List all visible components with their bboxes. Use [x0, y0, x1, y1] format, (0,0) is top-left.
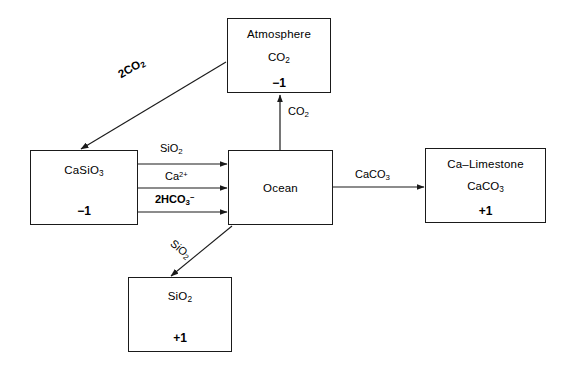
node-casio3[interactable]: CaSiO3 −1 — [30, 150, 138, 225]
formula-base: Ca — [165, 170, 179, 182]
node-atmosphere-value: −1 — [272, 76, 286, 90]
edge-atmosphere-to-casio3 — [81, 62, 226, 149]
node-ocean-title: Ocean — [263, 182, 298, 194]
formula-base: CaCO — [467, 180, 499, 192]
node-atmosphere-formula: CO2 — [268, 51, 290, 65]
formula-subscript: 3 — [499, 185, 504, 194]
node-sio2-title: SiO2 — [168, 290, 193, 304]
node-casio3-value: −1 — [77, 204, 91, 218]
node-sio2[interactable]: SiO2 +1 — [128, 277, 232, 352]
formula-subscript: 2 — [178, 147, 182, 156]
formula-subscript: 2 — [187, 295, 192, 304]
node-ocean[interactable]: Ocean — [228, 150, 333, 225]
node-limestone-formula: CaCO3 — [467, 180, 504, 194]
formula-base: CaCO — [355, 168, 386, 180]
edge-label-caco3: CaCO3 — [355, 168, 390, 182]
formula-superscript: − — [190, 193, 194, 202]
node-atmosphere-title: Atmosphere — [247, 28, 311, 40]
node-limestone-value: +1 — [479, 204, 493, 218]
node-atmosphere[interactable]: Atmosphere CO2 −1 — [227, 18, 331, 93]
node-sio2-value: +1 — [173, 331, 187, 345]
edge-label-ca2plus: Ca2+ — [165, 170, 188, 182]
diagram-canvas: Atmosphere CO2 −1 CaSiO3 −1 Ocean Ca–Lim… — [0, 0, 563, 371]
formula-superscript: 2+ — [179, 170, 188, 179]
formula-subscript: 2 — [285, 56, 290, 65]
edge-label-2hco3: 2HCO3− — [155, 193, 194, 207]
formula-base: SiO — [160, 142, 178, 154]
formula-base: CaSiO — [64, 164, 99, 176]
formula-base: SiO — [168, 290, 188, 302]
formula-subscript: 3 — [99, 169, 104, 178]
formula-subscript: 2 — [305, 110, 309, 119]
formula-base: 2HCO — [155, 193, 186, 205]
node-casio3-title: CaSiO3 — [64, 164, 104, 178]
node-limestone-title: Ca–Limestone — [447, 158, 524, 170]
node-limestone[interactable]: Ca–Limestone CaCO3 +1 — [425, 148, 546, 223]
edge-label-sio2-horizontal: SiO2 — [160, 142, 183, 156]
formula-base: CO — [268, 51, 285, 63]
formula-base: CO — [288, 105, 305, 117]
edge-label-co2: CO2 — [288, 105, 309, 119]
formula-subscript: 3 — [386, 173, 390, 182]
